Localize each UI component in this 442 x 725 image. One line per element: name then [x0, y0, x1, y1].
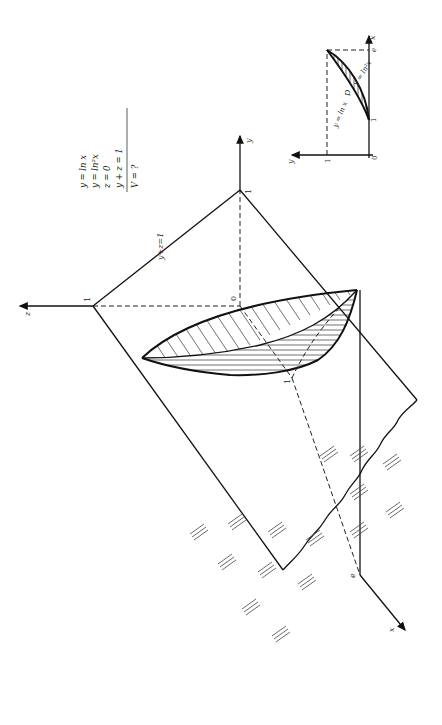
inset-y-tick-1: 1: [324, 159, 332, 163]
x-tick-1: 1: [283, 379, 292, 384]
plane-label: y+z=1: [156, 233, 165, 261]
base-curve: [142, 290, 357, 375]
z-axis-label: z: [23, 311, 32, 317]
inset-y-label: y: [286, 159, 295, 165]
inset-label-ln2-x: y = ln²x: [351, 59, 373, 88]
inset-x-tick-1: 1: [370, 118, 378, 122]
main-3d-figure: z 1 0 y 1 y+z=1 x e 1: [20, 136, 417, 642]
inset-plot: x y 0 1 e 1 y = ln x y = ln²x D: [286, 35, 379, 165]
main-3d-overlay: y = ln x y = ln²x z = 0 y + z = 1 V = ? …: [0, 0, 442, 725]
x-axis-label: x: [387, 627, 396, 632]
equation-line: y = ln²x: [90, 154, 100, 189]
z-tick-1: 1: [83, 297, 92, 302]
equation-line: z = 0: [102, 165, 112, 189]
x-hidden-segment-b: [292, 378, 360, 575]
inset-curve-ln2-x: [327, 50, 369, 120]
equation-block-overlay: y = ln x y = ln²x z = 0 y + z = 1 V = ?: [78, 108, 140, 192]
top-surface-hatching: [140, 220, 380, 380]
inset-label-ln-x: y = ln x: [331, 100, 349, 129]
y-tick-1: 1: [244, 189, 253, 194]
inset-x-tick-e: e: [370, 48, 378, 52]
y-axis-label: y: [244, 138, 253, 144]
inset-curve-ln-x: [327, 50, 369, 120]
ground-hatching: [190, 446, 404, 642]
origin-label: 0: [229, 296, 238, 301]
equation-result: V = ?: [130, 164, 140, 188]
equation-line: y + z = 1: [114, 148, 124, 189]
plane-edge-top-left: [93, 190, 240, 306]
inset-region-label: D: [343, 89, 352, 97]
x-tick-e: e: [348, 573, 357, 578]
inset-origin-label: 0: [371, 156, 379, 160]
plane-edge-right: [240, 190, 417, 400]
inset-x-label: x: [368, 35, 377, 40]
x-axis: [360, 575, 405, 630]
equation-line: y = ln x: [78, 155, 88, 189]
